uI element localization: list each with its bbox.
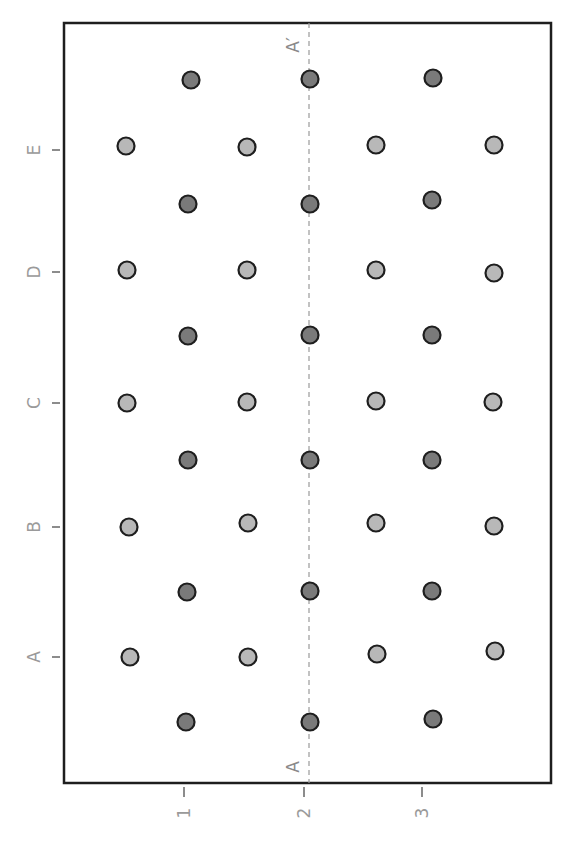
- dark-circle: [424, 327, 441, 344]
- y-tick-label: A: [24, 651, 44, 663]
- light-circle: [368, 137, 385, 154]
- dark-circle: [180, 452, 197, 469]
- x-tick-label: 3: [412, 808, 432, 819]
- x-tick-label: 2: [294, 808, 314, 819]
- y-tick-label: C: [24, 397, 44, 409]
- x-tick-label: 1: [174, 808, 194, 819]
- section-end-label: A′: [283, 37, 303, 53]
- light-circle: [239, 139, 256, 156]
- dark-circle: [180, 196, 197, 213]
- y-tick-label: B: [24, 521, 44, 533]
- y-tick-label: D: [24, 265, 44, 278]
- dark-circle: [424, 583, 441, 600]
- dark-circle: [179, 584, 196, 601]
- dark-circle: [302, 714, 319, 731]
- dark-circle: [424, 452, 441, 469]
- y-tick-label: E: [24, 145, 44, 156]
- light-circle: [119, 395, 136, 412]
- light-circle: [240, 515, 257, 532]
- light-circle: [486, 265, 503, 282]
- y-axis-ticks: EDCBA: [24, 145, 60, 663]
- light-circle: [369, 646, 386, 663]
- light-circle: [240, 649, 257, 666]
- plot-frame: [64, 23, 551, 783]
- light-circle: [368, 515, 385, 532]
- light-circle: [487, 643, 504, 660]
- dark-circle: [302, 327, 319, 344]
- grid-diagram: EDCBA 123 A A′: [0, 0, 574, 844]
- section-start-label: A: [283, 761, 303, 773]
- dark-circle: [302, 583, 319, 600]
- light-circle: [118, 138, 135, 155]
- light-circle: [486, 137, 503, 154]
- light-circle: [368, 393, 385, 410]
- dark-circle: [180, 328, 197, 345]
- dark-circle: [425, 70, 442, 87]
- light-circle: [119, 262, 136, 279]
- dark-circle: [425, 711, 442, 728]
- light-circle: [486, 518, 503, 535]
- x-axis-ticks: 123: [174, 787, 432, 818]
- dark-circle: [183, 72, 200, 89]
- dark-circle: [302, 71, 319, 88]
- dark-circle: [302, 196, 319, 213]
- light-circle: [121, 519, 138, 536]
- dark-circle: [302, 452, 319, 469]
- dark-circle: [424, 192, 441, 209]
- light-circle: [122, 649, 139, 666]
- light-circle: [485, 394, 502, 411]
- dark-circle: [178, 714, 195, 731]
- light-circle: [239, 262, 256, 279]
- light-circle: [239, 394, 256, 411]
- light-circle: [368, 262, 385, 279]
